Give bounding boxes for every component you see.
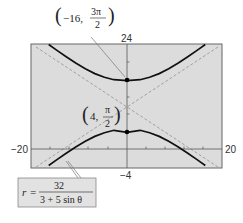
svg-text:): ) — [108, 4, 115, 27]
x-min-label: −20 — [11, 144, 28, 155]
point-upper-vertex — [125, 78, 130, 83]
annotation-lower-theta-den: 2 — [105, 118, 110, 129]
y-max-label: 24 — [121, 33, 133, 44]
annotation-upper-vertex: ( −16, 3π 2 ) — [55, 4, 115, 30]
equation-lhs: r — [22, 186, 27, 198]
annotation-upper-theta-num: 3π — [91, 6, 101, 17]
annotation-lower-theta-num: π — [105, 104, 110, 115]
svg-text:(: ( — [82, 103, 89, 126]
y-min-label: −4 — [120, 170, 132, 181]
x-max-label: 20 — [225, 144, 237, 155]
point-lower-vertex — [125, 130, 130, 135]
equation-numerator: 32 — [54, 180, 64, 191]
svg-text:(: ( — [55, 4, 62, 27]
equation-equals: = — [30, 186, 36, 198]
equation-denominator: 3 + 5 sin θ — [40, 194, 82, 205]
equation-box: r = 32 3 + 5 sin θ — [18, 178, 96, 207]
hyperbola-polar-graph: −20 20 24 −4 ( −16, 3π 2 ) ( 4, π 2 ) r … — [0, 0, 243, 223]
svg-text:): ) — [114, 103, 121, 126]
annotation-lower-r: 4, — [90, 110, 99, 122]
annotation-upper-theta-den: 2 — [95, 19, 100, 30]
annotation-upper-r: −16, — [63, 12, 83, 24]
